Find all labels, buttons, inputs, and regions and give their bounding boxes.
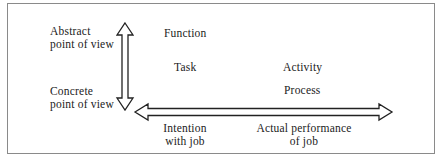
cell-activity: Activity xyxy=(283,61,322,74)
actual-performance-label: Actual performance of job xyxy=(254,122,354,148)
intention-label: Intention with job xyxy=(160,122,210,148)
concrete-label-line2: point of view xyxy=(50,98,114,111)
cell-task: Task xyxy=(174,61,196,74)
abstract-label: Abstract point of view xyxy=(50,25,114,51)
cell-process: Process xyxy=(284,84,321,97)
intention-label-line2: with job xyxy=(160,135,210,148)
concrete-label: Concrete point of view xyxy=(50,85,114,111)
actual-performance-label-line1: Actual performance xyxy=(254,122,354,135)
abstract-label-line2: point of view xyxy=(50,38,114,51)
actual-performance-label-line2: of job xyxy=(254,135,354,148)
concrete-label-line1: Concrete xyxy=(50,85,114,98)
intention-label-line1: Intention xyxy=(160,122,210,135)
cell-function: Function xyxy=(164,27,207,40)
vertical-double-arrow-icon xyxy=(117,23,133,110)
abstract-label-line1: Abstract xyxy=(50,25,114,38)
horizontal-double-arrow-icon xyxy=(135,104,392,120)
